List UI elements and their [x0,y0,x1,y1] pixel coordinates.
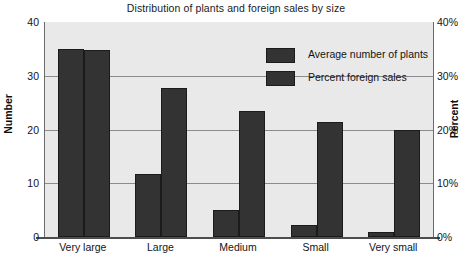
y-axis-left-tick-label: 0 [0,231,39,243]
x-axis-tick-label: Large [147,241,174,253]
bar [58,49,84,237]
bar [135,174,161,237]
bar [84,50,110,237]
y-axis-left-title: Number [2,79,14,149]
legend-swatch-icon [266,48,295,63]
x-axis-tick-label: Small [302,241,328,253]
chart-title: Distribution of plants and foreign sales… [0,2,472,14]
bar [291,225,317,237]
bar [394,130,420,238]
y-axis-right-title: Percent [448,84,460,154]
plot-area: Average number of plantsPercent foreign … [44,22,434,237]
chart-legend: Average number of plantsPercent foreign … [266,47,466,92]
bar [239,111,265,237]
y-axis-right-tick-label: 40% [437,16,472,28]
y-axis-left-tick-label: 10 [0,177,39,189]
chart-container: Distribution of plants and foreign sales… [0,0,472,262]
x-axis-tick-label: Very small [369,241,417,253]
x-axis-line [36,237,440,239]
legend-label: Percent foreign sales [308,71,407,83]
bar [213,210,239,237]
x-axis-tick-label: Medium [219,241,256,253]
legend-swatch-icon [266,71,295,86]
bar [161,88,187,237]
y-axis-right-tick-label: 30% [437,70,472,82]
x-axis-tick-label: Very large [59,241,106,253]
bar [317,122,343,237]
legend-label: Average number of plants [308,48,428,60]
y-axis-right-tick-label: 0% [437,231,472,243]
y-axis-right-tick-label: 10% [437,177,472,189]
y-axis-left-tick-label: 40 [0,16,39,28]
